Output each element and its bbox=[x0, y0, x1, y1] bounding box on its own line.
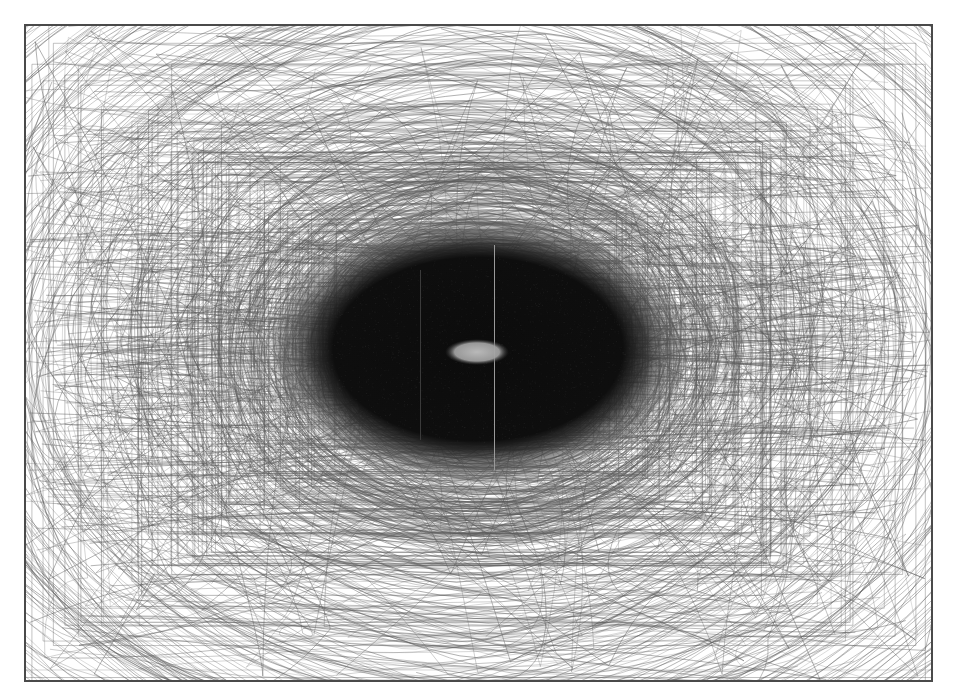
trajectory-density-figure: Overlay of many gaze/scan trajectories f… bbox=[0, 0, 956, 698]
trajectory-canvas bbox=[0, 0, 956, 698]
